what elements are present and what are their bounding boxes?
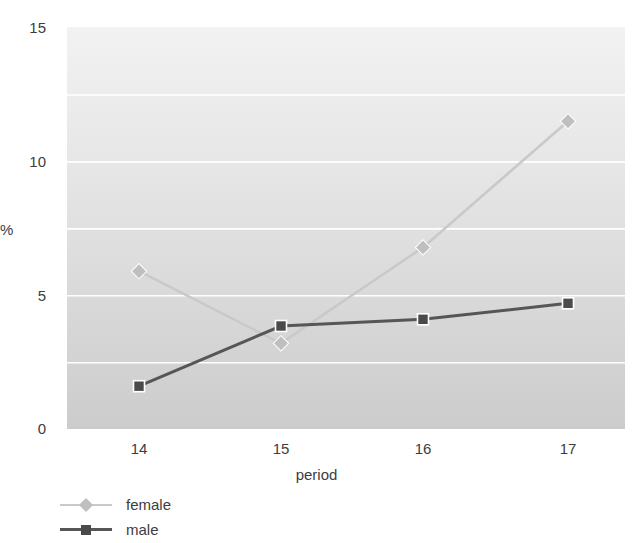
- y-tick-label-5: 5: [2, 287, 46, 304]
- legend-item-female[interactable]: female: [60, 492, 360, 517]
- square-marker-icon: [81, 525, 91, 535]
- x-tick-label-14: 14: [109, 440, 169, 457]
- legend-item-male[interactable]: male: [60, 517, 360, 542]
- legend-label-female: female: [112, 496, 171, 513]
- data-point-male-17: [563, 298, 574, 309]
- data-point-male-15: [276, 321, 287, 332]
- x-tick-label-16: 16: [393, 440, 453, 457]
- legend-label-male: male: [112, 521, 159, 538]
- y-tick-label-10: 10: [2, 153, 46, 170]
- y-tick-label-15: 15: [2, 19, 46, 36]
- data-point-male-16: [418, 314, 429, 325]
- legend-key-male: [60, 522, 112, 538]
- plot-area-background: [67, 27, 625, 429]
- x-tick-label-15: 15: [251, 440, 311, 457]
- x-tick-label-17: 17: [538, 440, 598, 457]
- diamond-marker-icon: [79, 497, 93, 511]
- line-chart: % 15 10 5 0 14 15 16 17 period female ma…: [0, 0, 633, 543]
- data-point-male-14: [134, 381, 145, 392]
- x-axis-title: period: [0, 466, 633, 483]
- plot-canvas: [0, 0, 633, 543]
- legend-key-female: [60, 497, 112, 513]
- chart-legend: female male: [60, 492, 360, 542]
- y-tick-label-0: 0: [2, 420, 46, 437]
- y-axis-title: %: [0, 221, 13, 238]
